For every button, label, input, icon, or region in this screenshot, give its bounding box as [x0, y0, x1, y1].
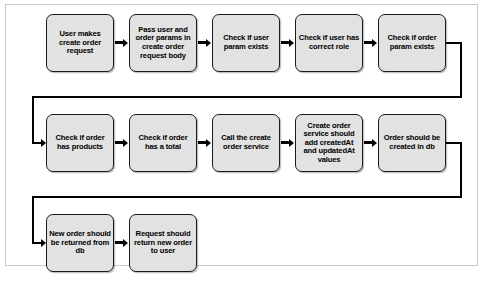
arrow-shaft: [364, 141, 372, 144]
flow-node-user-makes-create-order-request[interactable]: User makes create order request: [46, 14, 114, 72]
flow-node-new-order-returned-from-db[interactable]: New order should be returned from db: [46, 214, 114, 272]
wrap2-segment-drop: [32, 196, 34, 243]
arrow-n6-to-n7: [115, 138, 128, 147]
wrap2-segment-left: [32, 196, 462, 198]
flow-node-request-returns-new-order-to-user[interactable]: Request should return new order to user: [129, 214, 197, 272]
arrow-shaft: [198, 41, 206, 44]
arrow-n8-to-n9: [281, 138, 294, 147]
flow-node-label: Check if user param exists: [215, 34, 277, 51]
arrow-head-icon: [289, 39, 294, 47]
flow-node-label: Create order service should add createdA…: [298, 122, 360, 165]
flow-node-service-adds-created-updated-at[interactable]: Create order service should add createdA…: [295, 114, 363, 172]
flow-node-label: Call the create order service: [215, 134, 277, 151]
arrow-n11-to-n12: [115, 238, 128, 247]
wrap1-segment-left: [32, 96, 462, 98]
arrow-n7-to-n8: [198, 138, 211, 147]
arrow-head-icon: [372, 139, 377, 147]
flowchart-figure: User makes create order request Pass use…: [5, 4, 478, 266]
wrap1-segment-down: [460, 42, 462, 98]
arrow-n9-to-n10: [364, 138, 377, 147]
arrow-head-icon: [123, 39, 128, 47]
flow-node-call-create-order-service[interactable]: Call the create order service: [212, 114, 280, 172]
arrow-n4-to-n5: [364, 38, 377, 47]
flow-node-label: Request should return new order to user: [132, 230, 194, 256]
flow-node-check-user-param-exists[interactable]: Check if user param exists: [212, 14, 280, 72]
arrow-shaft: [115, 141, 123, 144]
flow-node-pass-user-and-order-params[interactable]: Pass user and order params in create ord…: [129, 14, 197, 72]
arrow-head-icon: [206, 39, 211, 47]
arrow-n2-to-n3: [198, 38, 211, 47]
arrow-head-icon: [372, 39, 377, 47]
flow-node-label: Order should be created in db: [381, 134, 443, 151]
flow-node-order-should-be-created-in-db[interactable]: Order should be created in db: [378, 114, 446, 172]
flow-node-check-order-has-a-total[interactable]: Check if order has a total: [129, 114, 197, 172]
wrap2-segment-down: [460, 142, 462, 198]
wrap1-segment-drop: [32, 96, 34, 143]
arrow-head-icon: [123, 139, 128, 147]
flow-node-label: Check if order param exists: [381, 34, 443, 51]
flow-node-label: User makes create order request: [49, 30, 111, 56]
flow-node-label: Pass user and order params in create ord…: [132, 26, 194, 60]
arrow-head-icon: [123, 239, 128, 247]
flow-node-label: New order should be returned from db: [49, 230, 111, 256]
arrow-shaft: [115, 241, 123, 244]
arrow-shaft: [281, 41, 289, 44]
arrow-shaft: [198, 141, 206, 144]
arrow-shaft: [115, 41, 123, 44]
flow-node-check-user-has-correct-role[interactable]: Check if user has correct role: [295, 14, 363, 72]
arrow-n3-to-n4: [281, 38, 294, 47]
arrow-head-icon: [206, 139, 211, 147]
flow-node-check-order-has-products[interactable]: Check if order has products: [46, 114, 114, 172]
flow-node-label: Check if order has products: [49, 134, 111, 151]
arrow-shaft: [364, 41, 372, 44]
flow-node-label: Check if user has correct role: [298, 34, 360, 51]
arrow-shaft: [281, 141, 289, 144]
flow-node-label: Check if order has a total: [132, 134, 194, 151]
arrow-head-icon: [289, 139, 294, 147]
flow-node-check-order-param-exists[interactable]: Check if order param exists: [378, 14, 446, 72]
arrow-n1-to-n2: [115, 38, 128, 47]
